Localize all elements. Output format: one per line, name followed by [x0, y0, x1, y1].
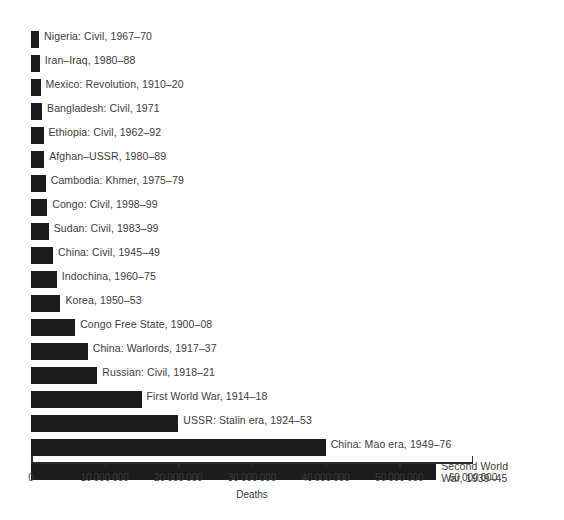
bar-row: Iran–Iraq, 1980–88: [31, 52, 473, 76]
x-axis-tick: [105, 463, 106, 468]
bar-label: China: Mao era, 1949–76: [331, 438, 452, 450]
bar-row: Indochina, 1960–75: [31, 268, 473, 292]
bar-row: China: Mao era, 1949–76: [31, 436, 473, 460]
x-axis-tick-label: 40 000 000: [301, 472, 350, 484]
bar: [31, 295, 60, 312]
bar-row: Mexico: Revolution, 1910–20: [31, 76, 473, 100]
bar-row: Cambodia: Khmer, 1975–79: [31, 172, 473, 196]
bar-label: First World War, 1914–18: [147, 390, 268, 402]
bar-label: Congo Free State, 1900–08: [80, 318, 212, 330]
bar-row: China: Warlords, 1917–37: [31, 340, 473, 364]
bar-row: USSR: Stalin era, 1924–53: [31, 412, 473, 436]
x-axis-tick: [326, 463, 327, 468]
x-axis-tick-label: 60 000 000: [449, 472, 498, 484]
x-axis-tick-label: 50 000 000: [375, 472, 424, 484]
bar-label: China: Warlords, 1917–37: [93, 342, 217, 354]
bar-row: Nigeria: Civil, 1967–70: [31, 28, 473, 52]
bar: [31, 343, 88, 360]
bar-row: Ethiopia: Civil, 1962–92: [31, 124, 473, 148]
bar-row: Afghan–USSR, 1980–89: [31, 148, 473, 172]
bar: [31, 55, 40, 72]
bar-label: Korea, 1950–53: [65, 294, 141, 306]
x-axis-tick: [178, 463, 179, 468]
bar: [31, 367, 97, 384]
bar-label: USSR: Stalin era, 1924–53: [183, 414, 312, 426]
bar-row: Sudan: Civil, 1983–99: [31, 220, 473, 244]
bar-label: Nigeria: Civil, 1967–70: [44, 30, 152, 42]
bar: [31, 439, 326, 456]
bar-row: Congo: Civil, 1998–99: [31, 196, 473, 220]
x-axis-tick-label: 0: [28, 472, 34, 484]
bar: [31, 271, 57, 288]
bar: [31, 415, 178, 432]
bar-label: Sudan: Civil, 1983–99: [54, 222, 159, 234]
x-axis-right-cap: [472, 456, 474, 463]
bar-row: First World War, 1914–18: [31, 388, 473, 412]
x-axis-tick-label: 30 000 000: [228, 472, 277, 484]
x-axis-left-cap: [31, 456, 33, 463]
bar-row: Russian: Civil, 1918–21: [31, 364, 473, 388]
x-axis-tick-label: 10 000 000: [80, 472, 129, 484]
bar-row: Bangladesh: Civil, 1971: [31, 100, 473, 124]
x-axis-tick: [399, 463, 400, 468]
bar-label: Mexico: Revolution, 1910–20: [46, 78, 184, 90]
bar-label: Bangladesh: Civil, 1971: [47, 102, 160, 114]
x-axis-title: Deaths: [31, 489, 473, 500]
x-axis-tick: [252, 463, 253, 468]
plot-area: Nigeria: Civil, 1967–70Iran–Iraq, 1980–8…: [31, 28, 473, 462]
bar-label: China: Civil, 1945–49: [58, 246, 160, 258]
bar: [31, 175, 46, 192]
bar: [31, 319, 75, 336]
bar-label: Ethiopia: Civil, 1962–92: [49, 126, 162, 138]
x-axis-tick-label: 20 000 000: [154, 472, 203, 484]
bar-label: Russian: Civil, 1918–21: [102, 366, 215, 378]
bar: [31, 391, 142, 408]
bar-label: Indochina, 1960–75: [62, 270, 156, 282]
bar: [31, 247, 53, 264]
deaths-bar-chart: Nigeria: Civil, 1967–70Iran–Iraq, 1980–8…: [0, 0, 564, 520]
bar: [31, 151, 44, 168]
bar: [31, 31, 39, 48]
bar-row: Congo Free State, 1900–08: [31, 316, 473, 340]
bar: [31, 103, 42, 120]
bar: [31, 223, 49, 240]
bar: [31, 79, 41, 96]
bar-label: Cambodia: Khmer, 1975–79: [51, 174, 184, 186]
bar-row: China: Civil, 1945–49: [31, 244, 473, 268]
bar-row: Korea, 1950–53: [31, 292, 473, 316]
bar: [31, 199, 47, 216]
bar-label: Afghan–USSR, 1980–89: [49, 150, 166, 162]
bar-label: Congo: Civil, 1998–99: [52, 198, 157, 210]
bar: [31, 127, 44, 144]
bar-label: Iran–Iraq, 1980–88: [45, 54, 136, 66]
